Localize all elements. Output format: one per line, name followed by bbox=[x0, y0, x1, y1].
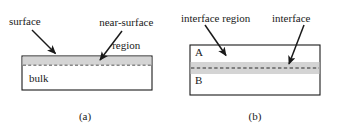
label-near-surface-region-line1: near-surface bbox=[99, 16, 153, 28]
label-bulk: bulk bbox=[29, 73, 49, 85]
label-phase-b: B bbox=[195, 75, 202, 87]
panel-a: surface near-surface region bulk (a) bbox=[0, 0, 170, 137]
label-near-surface-region: near-surface region bbox=[72, 5, 164, 63]
panel-b: interface region interface A B (b) bbox=[169, 0, 339, 137]
caption-a: (a) bbox=[55, 110, 115, 122]
label-surface: surface bbox=[9, 16, 41, 28]
surface-arrow bbox=[32, 30, 56, 54]
label-interface: interface bbox=[272, 13, 310, 25]
label-interface-region: interface region bbox=[181, 13, 250, 25]
label-phase-a: A bbox=[195, 47, 203, 59]
caption-b: (b) bbox=[225, 110, 285, 122]
label-near-surface-region-line2: region bbox=[112, 39, 140, 51]
figure-container: surface near-surface region bulk (a) bbox=[0, 0, 339, 137]
